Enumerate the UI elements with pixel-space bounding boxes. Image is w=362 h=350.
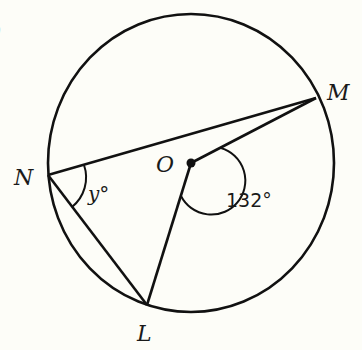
label-o: O bbox=[156, 152, 174, 177]
label-m: M bbox=[326, 80, 350, 105]
partial-label: ) bbox=[0, 18, 1, 40]
label-n: N bbox=[13, 165, 34, 190]
chord-nm bbox=[48, 98, 316, 175]
label-l: L bbox=[136, 321, 152, 346]
circle-diagram: ) N M L O y° 132° bbox=[0, 0, 362, 350]
radius-om bbox=[191, 98, 316, 163]
angle-label-132: 132° bbox=[226, 189, 272, 211]
angle-arc-y bbox=[72, 165, 86, 207]
angle-label-y: y° bbox=[87, 182, 109, 206]
center-point bbox=[187, 159, 196, 168]
radius-ol bbox=[147, 163, 191, 305]
